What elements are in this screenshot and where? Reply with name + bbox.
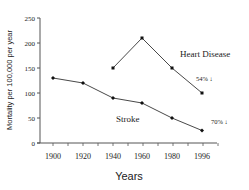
y-tick-label: 150 (25, 65, 36, 73)
series-line-heart-disease (113, 38, 202, 93)
heart-disease-label: Heart Disease (180, 49, 230, 59)
data-point-marker (112, 67, 115, 70)
data-point-marker (201, 92, 204, 95)
x-tick-label: 1920 (75, 152, 91, 161)
y-tick-label: 200 (25, 40, 36, 48)
y-tick-label: 250 (25, 15, 36, 23)
mortality-line-chart: 050100150200250190019201940196019801996 … (0, 0, 249, 190)
data-point-marker (140, 101, 144, 105)
data-point-marker (200, 129, 204, 133)
x-tick-label: 1960 (134, 152, 150, 161)
x-tick-label: 1900 (45, 152, 61, 161)
y-tick-label: 100 (25, 90, 36, 98)
axes: 050100150200250190019201940196019801996 (25, 15, 219, 162)
data-point-marker (171, 67, 174, 70)
data-point-marker (81, 81, 85, 85)
heart-disease-pct-label: 54% ↓ (196, 75, 213, 82)
data-point-marker (170, 116, 174, 120)
data-point-marker (141, 37, 144, 40)
x-tick-label: 1980 (164, 152, 180, 161)
y-axis-title: Mortality per 100,000 per year (5, 29, 14, 130)
x-tick-label: 1996 (194, 152, 210, 161)
y-tick-label: 50 (28, 115, 36, 123)
y-tick-label: 0 (32, 140, 36, 148)
x-tick-label: 1940 (105, 152, 121, 161)
stroke-pct-label: 70% ↓ (211, 118, 228, 125)
data-point-marker (51, 76, 55, 80)
stroke-label: Stroke (116, 114, 140, 124)
data-point-marker (111, 96, 115, 100)
x-axis-title: Years (115, 170, 143, 182)
